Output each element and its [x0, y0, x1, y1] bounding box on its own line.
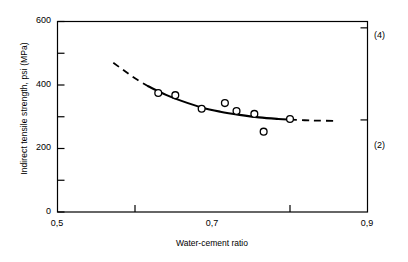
data-point: [198, 105, 205, 112]
chart-figure: Indirect tensile strength, psi (MPa) Wat…: [0, 0, 408, 262]
data-point: [222, 100, 229, 107]
plot-canvas: [0, 0, 408, 262]
plot-frame: [58, 22, 368, 213]
y-axis-ticks: [58, 22, 65, 213]
fit-curve-dashed-right: [290, 120, 337, 121]
data-point: [155, 90, 162, 97]
data-point: [260, 128, 267, 135]
data-point: [251, 110, 258, 117]
fit-curve-solid: [148, 86, 290, 119]
data-point: [233, 108, 240, 115]
right-axis-ticks: [361, 28, 368, 120]
data-point: [287, 116, 294, 123]
fit-curve-dashed-left: [113, 63, 148, 86]
data-point: [172, 92, 179, 99]
x-axis-ticks: [135, 205, 290, 212]
